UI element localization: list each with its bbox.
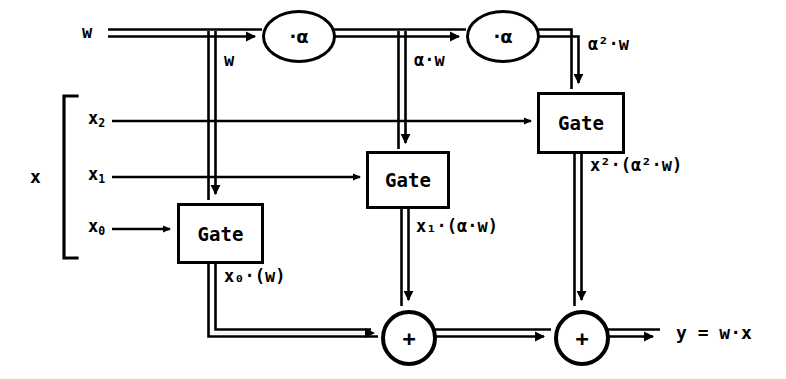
bus-w-to-mul1 — [108, 30, 262, 37]
label-gate1-output: x₁·(α·w) — [416, 218, 498, 235]
vector-bracket — [64, 96, 77, 258]
label-gate0-output: x₀·(w) — [224, 268, 285, 285]
bus-add1-to-add2 — [428, 330, 551, 337]
label-x0: x0 — [88, 218, 105, 238]
adder-node-2[interactable]: + — [554, 310, 610, 366]
label-w-branch: w — [224, 52, 234, 69]
multiplier-node-alpha-2[interactable]: ·α — [466, 10, 540, 63]
label-w-input: w — [82, 24, 92, 41]
label-x2: x2 — [88, 110, 105, 130]
label-output-result: y = w·x — [676, 324, 752, 342]
bus-w-branch-down — [209, 31, 216, 200]
multiplier-node-alpha-1[interactable]: ·α — [262, 10, 336, 63]
label-alpha-w: α·w — [414, 52, 445, 69]
label-gate2-output: x²·(α²·w) — [590, 157, 682, 174]
adder-node-1[interactable]: + — [381, 310, 437, 366]
diagram-canvas: w w α·w α²·w x x2 x1 x0 x₀·(w) x₁·(α·w) … — [0, 0, 786, 379]
label-x1: x1 — [88, 166, 105, 186]
label-vector-x: x — [30, 168, 41, 186]
bus-gate2-out-to-add2 — [575, 148, 582, 306]
gate-box-x2[interactable]: Gate — [537, 92, 625, 154]
gate-box-x1[interactable]: Gate — [366, 151, 450, 209]
bus-gate1-out-to-add1 — [402, 203, 409, 306]
label-alpha2-w: α²·w — [588, 36, 629, 53]
gate-box-x0[interactable]: Gate — [177, 203, 264, 264]
bus-alphaw-branch-down — [399, 31, 406, 149]
